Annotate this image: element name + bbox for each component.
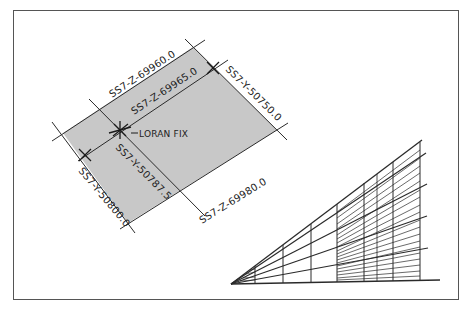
label-z-69980: SS7-Z-69980.0	[197, 176, 268, 226]
perspective-grid-diagram	[231, 140, 440, 284]
grid-baseline	[231, 280, 440, 284]
label-loran-fix: LORAN FIX	[139, 129, 188, 139]
diagram-canvas: SS7-Z-69960.0 SS7-Z-69965.0 SS7-Z-69980.…	[0, 0, 464, 315]
loran-grid-diagram: SS7-Z-69960.0 SS7-Z-69965.0 SS7-Z-69980.…	[52, 39, 288, 233]
hatch-region	[337, 150, 420, 280]
